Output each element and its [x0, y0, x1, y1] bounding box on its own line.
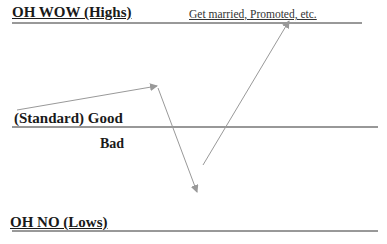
lows-label: OH NO (Lows) [10, 214, 108, 231]
recovery-arrow [203, 21, 289, 165]
bad-label: Bad [100, 136, 124, 152]
falling-arrow [158, 88, 197, 192]
rising-arrow [17, 86, 157, 110]
highs-example-note: Get married, Promoted, etc. [189, 8, 317, 20]
standard-good-label: (Standard) Good [14, 110, 123, 127]
highs-label: OH WOW (Highs) [12, 4, 131, 21]
